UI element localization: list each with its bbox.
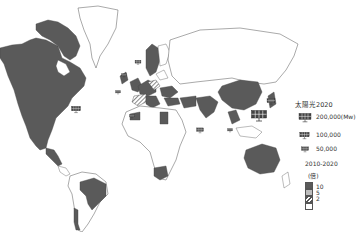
australia xyxy=(244,144,290,188)
solar-panel-germany-icon xyxy=(135,60,141,64)
africa xyxy=(122,106,186,180)
south-america xyxy=(68,172,108,232)
world-map xyxy=(0,0,361,232)
solar-panel-india-icon xyxy=(197,128,204,133)
solar-panel-vietnam-icon xyxy=(228,129,233,133)
solar-panel-china-icon xyxy=(252,111,267,122)
solar-panel-spain-icon xyxy=(116,91,121,95)
solar-panel-usa-icon xyxy=(72,106,81,112)
asia xyxy=(168,28,298,138)
north-america xyxy=(0,6,118,176)
